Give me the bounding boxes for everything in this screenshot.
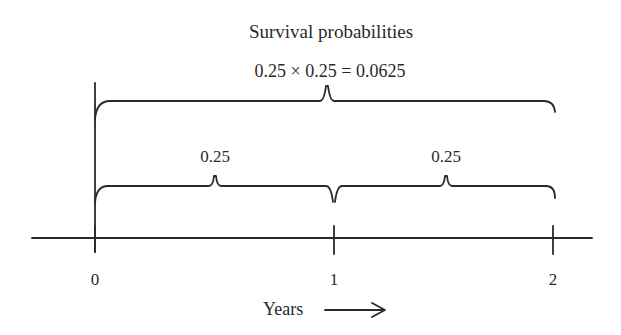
segment-probability-label-0-1: 0.25: [200, 148, 230, 165]
tick-label-0: 0: [91, 271, 100, 288]
tick-label-1: 1: [330, 271, 339, 288]
right-arrow-icon: [325, 303, 385, 317]
tick-label-2: 2: [549, 271, 558, 288]
diagram-title: Survival probabilities: [249, 22, 413, 41]
segment-brace-1-2: [335, 176, 555, 202]
axis-label-years: Years: [263, 300, 303, 318]
combined-probability-label: 0.25 × 0.25 = 0.0625: [255, 62, 406, 80]
segment-probability-label-1-2: 0.25: [431, 148, 461, 165]
segment-brace-0-1: [95, 176, 333, 203]
combined-brace: [95, 86, 555, 120]
